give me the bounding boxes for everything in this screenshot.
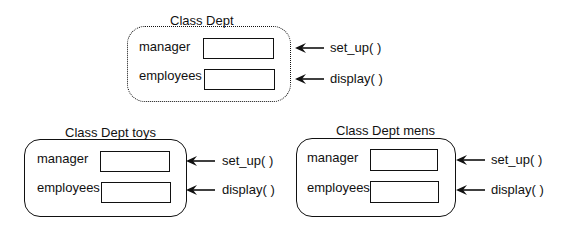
field-label-manager: manager <box>37 151 88 166</box>
field-box-manager <box>370 149 438 171</box>
field-label-manager: manager <box>307 150 358 165</box>
arrow-left-icon <box>294 42 326 54</box>
method-set-up: set_up( ) <box>330 40 381 55</box>
arrow-left-icon <box>455 154 487 166</box>
method-display: display( ) <box>330 71 383 86</box>
field-box-manager <box>100 151 170 172</box>
arrow-left-icon <box>185 155 217 167</box>
arrow-left-icon <box>455 184 487 196</box>
field-label-employees: employees <box>139 68 202 83</box>
method-display: display( ) <box>222 182 275 197</box>
field-label-employees: employees <box>37 180 100 195</box>
class-title: Class Dept toys <box>65 125 156 140</box>
arrow-left-icon <box>185 184 217 196</box>
field-box-employees <box>370 181 439 203</box>
field-label-manager: manager <box>139 39 190 54</box>
field-box-employees <box>101 182 171 203</box>
field-label-employees: employees <box>307 180 370 195</box>
field-box-manager <box>203 38 274 59</box>
field-box-employees <box>204 69 275 90</box>
class-title: Class Dept mens <box>336 123 435 138</box>
method-display: display( ) <box>491 182 544 197</box>
method-set-up: set_up( ) <box>222 153 273 168</box>
arrow-left-icon <box>294 73 326 85</box>
method-set-up: set_up( ) <box>491 152 542 167</box>
